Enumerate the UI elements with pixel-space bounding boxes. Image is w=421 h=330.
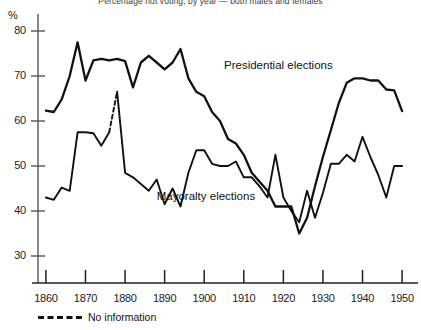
x-tick-1860: 1860 xyxy=(26,292,66,304)
x-tick-1910: 1910 xyxy=(224,292,264,304)
legend-label-no-information: No information xyxy=(88,311,156,323)
series-label-presidential: Presidential elections xyxy=(224,59,333,71)
y-tick-70: 70 xyxy=(4,69,26,81)
x-tick-1950: 1950 xyxy=(382,292,421,304)
series-path-mayoralty xyxy=(117,92,402,223)
x-tick-1940: 1940 xyxy=(343,292,383,304)
x-tick-1900: 1900 xyxy=(184,292,224,304)
series-path-mayoralty xyxy=(109,92,117,133)
x-tick-1870: 1870 xyxy=(65,292,105,304)
y-tick-50: 50 xyxy=(4,159,26,171)
series-path-mayoralty xyxy=(46,132,109,200)
legend: No information xyxy=(38,311,156,323)
y-tick-40: 40 xyxy=(4,204,26,216)
dashed-line-icon xyxy=(38,316,82,319)
x-tick-1880: 1880 xyxy=(105,292,145,304)
y-tick-80: 80 xyxy=(4,24,26,36)
y-tick-30: 30 xyxy=(4,249,26,261)
plot-canvas xyxy=(0,0,421,330)
chart-root: Percentage not voting, by year — both ma… xyxy=(0,0,421,330)
series-label-mayoralty: Mayoralty elections xyxy=(157,190,255,202)
x-tick-1920: 1920 xyxy=(263,292,303,304)
x-tick-1890: 1890 xyxy=(145,292,185,304)
y-tick-60: 60 xyxy=(4,114,26,126)
x-tick-1930: 1930 xyxy=(303,292,343,304)
